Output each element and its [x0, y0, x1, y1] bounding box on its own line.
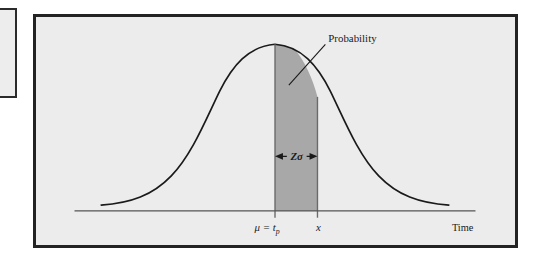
distribution-chart-svg: Zσ Probability μ = tp x Time [36, 17, 515, 245]
cropped-adjacent-box [0, 8, 17, 98]
probability-label: Probability [328, 32, 377, 44]
figure-page: Zσ Probability μ = tp x Time [0, 0, 538, 260]
band-width-label: Zσ [289, 150, 304, 162]
shaded-probability-area [275, 44, 317, 211]
time-axis-label: Time [452, 222, 474, 233]
mean-axis-label-subscript: p [275, 227, 280, 236]
mean-axis-label-main: μ = t [254, 221, 277, 233]
normal-distribution-figure: Zσ Probability μ = tp x Time [33, 14, 518, 248]
mean-axis-label: μ = tp [254, 221, 280, 236]
x-axis-value-label: x [315, 221, 321, 233]
